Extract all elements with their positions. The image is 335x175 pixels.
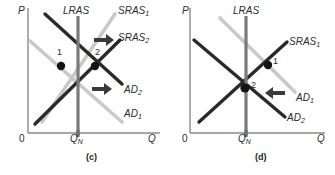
- axis-label-q: Q: [317, 134, 325, 144]
- axis-label-q: Q: [148, 134, 156, 144]
- panel-caption-d: (d): [255, 152, 267, 162]
- point-label-2: 2: [251, 81, 256, 90]
- ad-shift-arrow: [265, 87, 285, 99]
- curve-label-ad1: AD1: [124, 109, 142, 119]
- panel-d: P Q 0 QN LRAS SRAS1 AD1 AD2 1 2 (d): [167, 0, 334, 175]
- curve-label-sras2: SRAS2: [118, 33, 149, 43]
- panel-c: P Q 0 QN LRAS SRAS1 SRAS2 AD2 AD1 1 2 (c…: [0, 0, 167, 175]
- curve-label-sras1: SRAS1: [118, 6, 149, 16]
- curve-label-lras: LRAS: [233, 6, 259, 16]
- equilibrium-point-2: [240, 83, 249, 92]
- axis-tick-label-qn: QN: [238, 134, 251, 144]
- ad-shift-arrow: [92, 83, 112, 95]
- curve-ad2: [194, 40, 285, 117]
- panel-caption-c: (c): [86, 152, 97, 162]
- equilibrium-point-2: [91, 62, 99, 70]
- equilibrium-point-1: [264, 61, 272, 69]
- curve-ad1: [220, 18, 295, 92]
- axis-label-p: P: [182, 6, 189, 16]
- axis-label-p: P: [18, 6, 25, 16]
- point-label-1: 1: [57, 48, 62, 57]
- axis-origin-label: 0: [182, 134, 188, 144]
- curve-label-sras1: SRAS1: [289, 37, 320, 47]
- sras-shift-arrow: [94, 34, 114, 46]
- point-label-1: 1: [273, 57, 278, 66]
- curve-label-lras: LRAS: [63, 6, 89, 16]
- axis-tick-label-qn: QN: [70, 134, 83, 144]
- curve-label-ad2: AD2: [287, 113, 305, 123]
- equilibrium-point-1: [57, 62, 65, 70]
- curve-label-ad2: AD2: [124, 85, 142, 95]
- axis-origin-label: 0: [19, 134, 25, 144]
- curve-label-ad1: AD1: [296, 93, 314, 103]
- economics-figure: P Q 0 QN LRAS SRAS1 SRAS2 AD2 AD1 1 2 (c…: [0, 0, 335, 175]
- point-label-2: 2: [95, 48, 100, 57]
- panel-c-plot: [0, 0, 167, 175]
